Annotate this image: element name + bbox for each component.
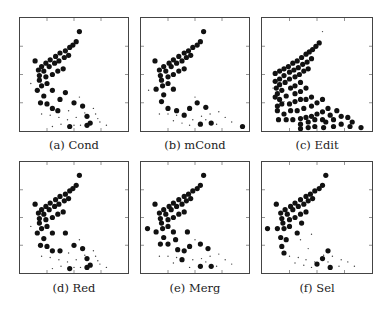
data-point-large [303,97,308,102]
data-point-large [305,60,310,65]
data-point-large [77,173,82,178]
data-point-small [332,256,333,257]
data-point-large [47,207,52,212]
data-point-small [231,121,232,122]
data-point-small [218,253,219,254]
data-point-small [194,239,195,240]
data-point-large [198,242,203,247]
data-point-large [292,99,297,104]
data-point-large [308,192,313,197]
data-point-small [216,124,217,125]
data-point-large [41,236,46,241]
data-point-large [165,242,170,247]
data-point-small [41,113,42,114]
data-point-small [205,261,206,262]
data-point-large [50,248,55,253]
data-point-small [95,113,96,114]
data-point-small [347,261,348,262]
data-point-small [148,90,149,91]
data-point-large [203,105,208,110]
data-point-large [173,237,178,242]
data-point-small [192,259,193,260]
data-point-large [301,69,306,74]
data-point-large [309,104,314,109]
data-point-large [179,58,184,63]
data-point-large [290,207,295,212]
data-point-large [84,265,89,270]
data-point-large [53,197,58,202]
data-point-small [327,261,328,262]
data-point-large [198,264,203,269]
data-point-large [306,119,311,124]
data-point-large [296,65,301,70]
data-point-large [154,229,159,234]
data-point-large [154,87,159,92]
data-point-large [57,97,62,102]
data-point-large [281,111,286,116]
data-point-large [281,66,286,71]
data-point-large [182,50,187,55]
data-point-large [160,83,165,88]
data-point-small [80,125,81,126]
data-point-small [201,116,202,117]
data-point-large [295,108,300,113]
data-point-large [50,88,55,93]
data-point-large [339,114,344,119]
data-point-large [37,78,42,83]
data-point-large [279,216,284,221]
data-point-large [290,117,295,122]
data-point-small [167,256,168,257]
data-point-small [60,266,61,267]
data-point-large [80,246,85,251]
data-point-large [80,104,85,109]
data-point-small [30,83,31,84]
data-point-small [41,256,42,257]
data-point-small [303,265,304,266]
data-point-large [301,106,306,111]
data-point-large [309,95,314,100]
data-point-large [278,211,283,216]
data-point-large [331,124,336,129]
data-point-large [298,212,303,217]
data-point-large [50,106,55,111]
data-point-large [52,61,57,66]
data-point-large [331,117,336,122]
data-point-small [311,234,312,235]
data-point-large [277,97,282,102]
data-point-small [68,110,69,111]
data-point-large [48,201,53,206]
data-point-small [184,117,185,118]
data-point-large [161,207,166,212]
data-point-large [320,109,325,114]
data-point-large [321,125,326,130]
data-point-small [218,111,219,112]
data-point-large [158,73,163,78]
data-point-large [67,124,72,129]
data-point-small [50,257,51,258]
data-point-large [265,226,270,231]
data-point-small [99,121,100,122]
data-point-large [298,80,303,85]
data-point-large [159,99,164,104]
data-point-large [71,243,76,248]
data-point-large [152,58,157,63]
data-point-large [345,115,350,120]
data-point-large [298,116,303,121]
scatter-panel-f [261,161,373,274]
data-point-large [350,119,355,124]
data-point-small [84,255,85,256]
data-point-large [174,204,179,209]
data-point-large [314,100,319,105]
data-point-small [97,260,98,261]
data-point-large [328,113,333,118]
data-point-large [205,246,210,251]
data-point-large [280,221,285,226]
data-point-large [63,230,68,235]
data-point-small [225,259,226,260]
data-point-small [173,262,174,263]
data-point-large [38,100,43,105]
data-point-large [63,192,68,197]
data-point-large [303,115,308,120]
data-point-large [298,89,303,94]
data-point-large [303,86,308,91]
